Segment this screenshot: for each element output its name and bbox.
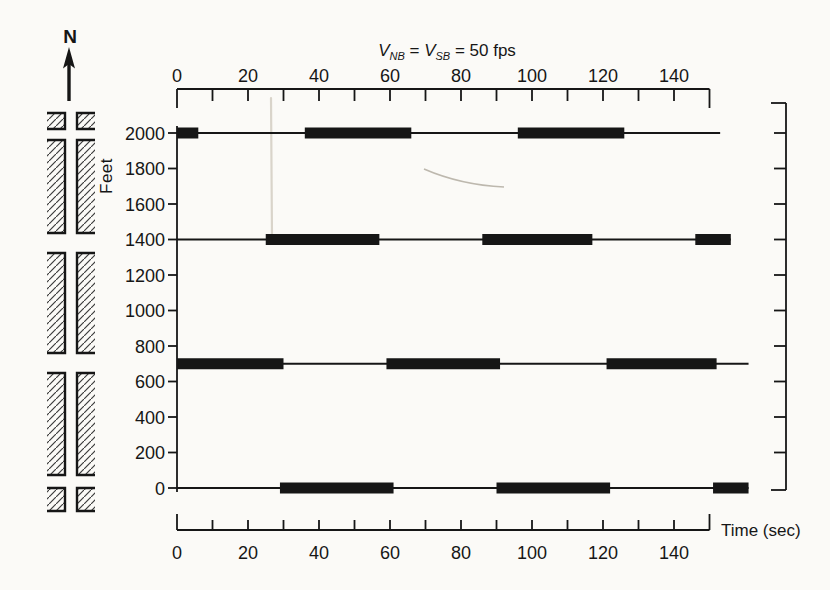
- feet-axis-labels: 0200400600800100012001400160018002000: [125, 124, 165, 499]
- y-axis-title: Feet: [97, 158, 117, 194]
- red-interval-bar: [266, 234, 380, 245]
- signal-line-1400ft: [177, 234, 731, 245]
- feet-tick-label-1000: 1000: [125, 301, 165, 321]
- bottom-axis-labels: 020406080100120140: [172, 543, 689, 563]
- feet-tick-label-600: 600: [135, 372, 165, 392]
- bottom-tick-label-60: 60: [380, 543, 400, 563]
- feet-tick-label-2000: 2000: [125, 124, 165, 144]
- bottom-time-axis: [177, 514, 710, 530]
- top-tick-label-140: 140: [659, 66, 689, 86]
- city-block: [47, 488, 65, 511]
- city-block: [47, 373, 65, 475]
- feet-tick-label-1200: 1200: [125, 266, 165, 286]
- bottom-tick-label-120: 120: [588, 543, 618, 563]
- top-tick-label-100: 100: [517, 66, 547, 86]
- city-block: [77, 488, 95, 511]
- bottom-tick-label-20: 20: [238, 543, 258, 563]
- top-tick-label-20: 20: [238, 66, 258, 86]
- top-time-axis: [177, 89, 710, 108]
- feet-tick-label-0: 0: [155, 479, 165, 499]
- figure-time-space-diagram: 0204060801001201400204060801001201400200…: [0, 0, 830, 590]
- top-axis-labels: 020406080100120140: [172, 66, 689, 86]
- top-tick-label-60: 60: [380, 66, 400, 86]
- feet-tick-label-1600: 1600: [125, 195, 165, 215]
- print-artifacts: [271, 98, 504, 238]
- top-tick-label-40: 40: [309, 66, 329, 86]
- street-map: [47, 113, 95, 511]
- city-block: [47, 253, 65, 353]
- top-tick-label-120: 120: [588, 66, 618, 86]
- chart-title: VNB = VSB = 50 fps: [352, 41, 542, 62]
- top-tick-label-0: 0: [172, 66, 182, 86]
- scan-smudge: [271, 98, 272, 238]
- diagram-svg: 0204060801001201400204060801001201400200…: [0, 0, 830, 590]
- red-interval-bar: [518, 128, 625, 139]
- red-interval-bar: [386, 358, 500, 369]
- signal-line-0ft: [177, 483, 749, 494]
- red-interval-bar: [607, 358, 717, 369]
- chart-title-part: SB: [435, 50, 450, 62]
- chart-title-part: =: [405, 41, 424, 60]
- red-interval-bar: [177, 128, 198, 139]
- feet-axis: [168, 126, 177, 492]
- city-block: [77, 373, 95, 475]
- red-interval-bar: [482, 234, 592, 245]
- feet-tick-label-800: 800: [135, 337, 165, 357]
- city-block: [77, 253, 95, 353]
- signal-line-700ft: [177, 358, 749, 369]
- chart-title-part: V: [424, 41, 435, 60]
- city-block: [77, 140, 95, 233]
- red-interval-bar: [695, 234, 731, 245]
- chart-title-part: NB: [389, 50, 404, 62]
- red-interval-bar: [497, 483, 611, 494]
- feet-tick-label-1400: 1400: [125, 230, 165, 250]
- bottom-tick-label-80: 80: [451, 543, 471, 563]
- feet-tick-label-1800: 1800: [125, 159, 165, 179]
- city-block: [77, 113, 95, 129]
- bottom-tick-label-140: 140: [659, 543, 689, 563]
- red-interval-bar: [305, 128, 412, 139]
- signal-lines: [177, 128, 749, 494]
- north-label: N: [59, 26, 81, 48]
- top-tick-label-80: 80: [451, 66, 471, 86]
- bottom-tick-label-40: 40: [309, 543, 329, 563]
- signal-line-2000ft: [177, 128, 720, 139]
- city-block: [47, 113, 65, 129]
- feet-tick-label-200: 200: [135, 443, 165, 463]
- x-axis-title: Time (sec): [721, 521, 801, 541]
- bottom-tick-label-100: 100: [517, 543, 547, 563]
- chart-title-part: = 50 fps: [450, 41, 516, 60]
- city-block: [47, 140, 65, 233]
- red-interval-bar: [713, 483, 749, 494]
- red-interval-bar: [280, 483, 394, 494]
- bottom-tick-label-0: 0: [172, 543, 182, 563]
- scan-smudge: [424, 169, 504, 187]
- right-feet-axis: [771, 103, 786, 490]
- feet-tick-label-400: 400: [135, 408, 165, 428]
- red-interval-bar: [177, 358, 284, 369]
- north-arrow: [63, 47, 75, 101]
- chart-title-part: V: [378, 41, 389, 60]
